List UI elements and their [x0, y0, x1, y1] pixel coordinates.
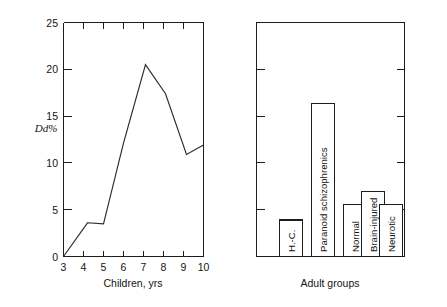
- left-top-ticks: [84, 23, 184, 29]
- left-xtick-label-4: 4: [81, 261, 87, 273]
- figure-svg: 25 20 15 10 5 0 3 4 5 6 7 8 9 10 Dd% Chi…: [0, 0, 447, 307]
- figure-container: 25 20 15 10 5 0 3 4 5 6 7 8 9 10 Dd% Chi…: [0, 0, 447, 307]
- right-right-ticks: [397, 69, 405, 209]
- right-left-ticks: [257, 69, 265, 209]
- bar-label-normal: Normal: [350, 221, 361, 252]
- adult-groups-bar-chart: H.-C. Paranoid schizophrenics Normal Bra…: [257, 23, 405, 290]
- left-xtick-label-7: 7: [141, 261, 147, 273]
- bar-label-neurotic: Neurotic: [386, 216, 397, 252]
- left-ytick-label-5: 5: [52, 204, 58, 216]
- left-xtick-label-6: 6: [121, 261, 127, 273]
- left-y-axis-title: Dd%: [34, 122, 58, 134]
- left-xtick-label-9: 9: [181, 261, 187, 273]
- left-y-ticks: [64, 69, 72, 209]
- bar-label-paranoid-schizophrenics: Paranoid schizophrenics: [318, 147, 329, 252]
- right-x-axis-title: Adult groups: [301, 277, 360, 289]
- left-ytick-label-20: 20: [46, 63, 58, 75]
- left-x-axis-title: Children, yrs: [104, 277, 163, 289]
- left-ytick-label-25: 25: [46, 17, 58, 29]
- children-line-chart: 25 20 15 10 5 0 3 4 5 6 7 8 9 10 Dd% Chi…: [34, 17, 210, 290]
- left-xtick-label-10: 10: [198, 261, 210, 273]
- left-ytick-label-10: 10: [46, 157, 58, 169]
- bars-group: [280, 104, 403, 257]
- dd-percent-line: [64, 65, 204, 257]
- bar-label-hc: H.-C.: [286, 230, 297, 252]
- left-ytick-label-15: 15: [46, 110, 58, 122]
- left-xtick-label-3: 3: [61, 261, 67, 273]
- left-xtick-label-5: 5: [101, 261, 107, 273]
- left-ytick-label-0: 0: [52, 251, 58, 263]
- left-x-ticks: [84, 251, 184, 257]
- left-xtick-label-8: 8: [161, 261, 167, 273]
- bar-label-brain-injured: Brain-injured: [368, 198, 379, 252]
